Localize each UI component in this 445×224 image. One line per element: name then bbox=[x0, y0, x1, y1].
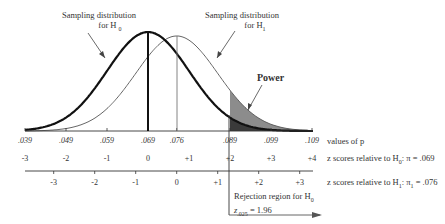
critical-z-label: z.025 = 1.96 bbox=[234, 205, 314, 219]
z1-tick-label: +3 bbox=[295, 178, 304, 187]
rejection-label-text: Rejection region for H bbox=[234, 191, 311, 201]
z1-axis-label: z scores relative to H1: π1 = .076 bbox=[327, 177, 437, 191]
rejection-label: Rejection region for H0 z.025 = 1.96 bbox=[234, 191, 314, 218]
h0-label-line2: for H bbox=[98, 20, 116, 30]
p-axis-label: values of p bbox=[327, 136, 364, 146]
critical-z-sub: .025 bbox=[237, 210, 248, 216]
p-tick-label: .049 bbox=[59, 136, 73, 145]
h0-arrowhead bbox=[99, 51, 105, 58]
z0-tick-label: +4 bbox=[308, 154, 317, 163]
z1-axis-suffix: : π bbox=[402, 177, 411, 187]
p-tick-label: .109 bbox=[305, 136, 319, 145]
p-axis-label-text: values of p bbox=[327, 136, 364, 146]
z0-axis-label: z scores relative to H0: π = .069 bbox=[327, 153, 434, 167]
p-tick-label: .089 bbox=[223, 136, 237, 145]
p-tick-label: .059 bbox=[100, 136, 114, 145]
h0-label: Sampling distribution for H 0 bbox=[62, 10, 136, 34]
z0-axis-label-text: z scores relative to H bbox=[327, 153, 399, 163]
z0-tick-label: +2 bbox=[226, 154, 235, 163]
h1-label-line2-wrap: for H1 bbox=[205, 20, 279, 34]
z0-tick-label: 0 bbox=[146, 154, 150, 163]
z1-axis-value: = .076 bbox=[414, 177, 438, 187]
p-tick-label: .099 bbox=[264, 136, 278, 145]
h1-label-line1: Sampling distribution bbox=[205, 10, 279, 20]
z1-tick-label: -3 bbox=[50, 178, 57, 187]
critical-z-value: = 1.96 bbox=[248, 205, 272, 215]
z1-axis-label-text: z scores relative to H bbox=[327, 177, 399, 187]
z0-tick-label: -3 bbox=[22, 154, 29, 163]
p-tick-label: .069 bbox=[141, 136, 155, 145]
rejection-label-line1: Rejection region for H0 bbox=[234, 191, 314, 205]
z1-tick-label: -2 bbox=[91, 178, 98, 187]
h0-label-line2-wrap: for H 0 bbox=[62, 20, 136, 34]
p-tick-label: .039 bbox=[18, 136, 32, 145]
z1-tick-label: -1 bbox=[132, 178, 139, 187]
z0-tick-label: +1 bbox=[185, 154, 194, 163]
h0-sub: 0 bbox=[119, 26, 122, 32]
z0-axis-suffix: : π = .069 bbox=[402, 153, 435, 163]
p-tick-label: .076 bbox=[170, 136, 184, 145]
z0-tick-label: -2 bbox=[63, 154, 70, 163]
rejection-sub: 0 bbox=[311, 197, 314, 203]
z1-tick-label: 0 bbox=[175, 178, 179, 187]
h0-label-line1: Sampling distribution bbox=[62, 10, 136, 20]
z0-tick-label: +3 bbox=[267, 154, 276, 163]
z1-tick-label: +1 bbox=[213, 178, 222, 187]
h1-label-line2: for H bbox=[244, 20, 262, 30]
h1-label: Sampling distribution for H1 bbox=[205, 10, 279, 34]
h1-sub: 1 bbox=[263, 26, 266, 32]
z0-tick-label: -1 bbox=[104, 154, 111, 163]
z1-tick-label: +2 bbox=[254, 178, 263, 187]
power-label: Power bbox=[257, 72, 284, 83]
